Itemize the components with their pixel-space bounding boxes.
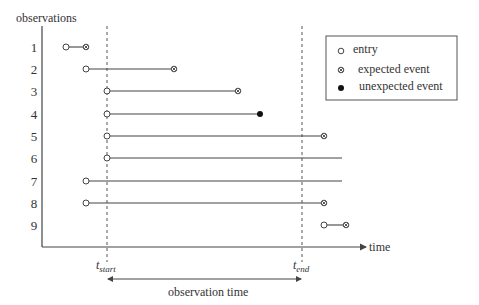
svg-text:9: 9 — [31, 218, 38, 233]
svg-text:5: 5 — [31, 129, 38, 144]
observation-diagram: observations time tstart tend observatio… — [0, 0, 479, 305]
observation-row-5 — [104, 133, 327, 139]
unexpected-event-icon — [257, 111, 263, 117]
observation-time-label: observation time — [168, 285, 248, 299]
entry-icon — [104, 111, 110, 117]
x-axis-label: time — [369, 240, 390, 254]
entry-icon — [63, 44, 69, 50]
observation-row-1 — [63, 44, 89, 50]
legend: entry expected event unexpected event — [326, 36, 457, 100]
entry-icon — [83, 200, 89, 206]
entry-icon — [83, 178, 89, 184]
svg-text:6: 6 — [31, 151, 38, 166]
svg-text:3: 3 — [31, 84, 38, 99]
observation-row-7 — [83, 178, 342, 184]
svg-text:8: 8 — [31, 196, 38, 211]
row-labels: 1 2 3 4 5 6 7 8 9 — [31, 40, 38, 233]
observation-row-4 — [104, 111, 263, 117]
y-axis-label: observations — [16, 11, 77, 25]
svg-text:7: 7 — [31, 174, 38, 189]
t-end-label: tend — [293, 258, 310, 274]
observation-row-8 — [83, 200, 327, 206]
entry-icon — [104, 133, 110, 139]
t-start-label: tstart — [96, 258, 116, 274]
observation-row-2 — [83, 66, 177, 72]
svg-text:unexpected event: unexpected event — [359, 79, 443, 93]
svg-text:1: 1 — [31, 40, 38, 55]
observation-row-6 — [104, 155, 342, 161]
svg-text:entry: entry — [353, 42, 378, 56]
observation-row-9 — [321, 222, 349, 228]
observation-lines — [63, 44, 349, 228]
entry-icon — [338, 48, 344, 54]
svg-text:4: 4 — [31, 107, 38, 122]
expected-event-icon — [338, 67, 344, 73]
observation-row-3 — [104, 88, 241, 94]
svg-text:2: 2 — [31, 62, 38, 77]
entry-icon — [104, 88, 110, 94]
entry-icon — [104, 155, 110, 161]
entry-icon — [321, 222, 327, 228]
entry-icon — [83, 66, 89, 72]
svg-text:expected event: expected event — [358, 62, 430, 76]
unexpected-event-icon — [338, 85, 344, 91]
